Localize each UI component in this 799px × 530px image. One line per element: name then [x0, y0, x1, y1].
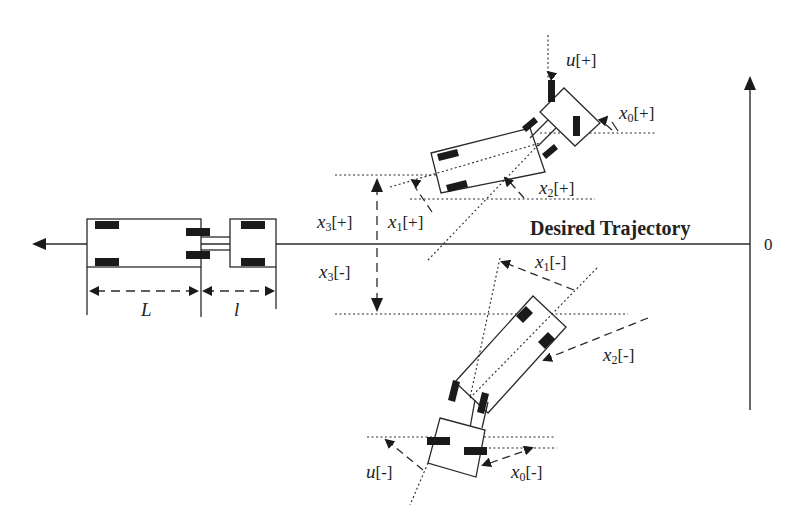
reference-vehicle [87, 219, 276, 317]
diagram-graphics [0, 0, 799, 530]
origin-label: 0 [764, 236, 773, 253]
x1-positive-label: x1[+] [388, 212, 423, 233]
x3-negative-label: x3[-] [319, 262, 350, 283]
u-positive-label: u[+] [566, 50, 596, 71]
x3-positive-label: x3[+] [317, 212, 352, 233]
trailer-length-label: L [141, 300, 152, 319]
x2-negative-label: x2[-] [603, 345, 634, 366]
x0-negative-label: x0[-] [511, 462, 542, 483]
hitch-length-label: l [234, 300, 239, 319]
x2-positive-label: x2[+] [539, 178, 574, 199]
x0-positive-label: x0[+] [619, 103, 654, 124]
desired-trajectory-label: Desired Trajectory [530, 218, 691, 238]
x1-negative-label: x1[-] [535, 252, 566, 273]
trailer-kinematics-diagram: Desired Trajectory 0 L l u[+] x0[+] x2[+… [0, 0, 799, 530]
u-negative-label: u[-] [366, 462, 392, 483]
